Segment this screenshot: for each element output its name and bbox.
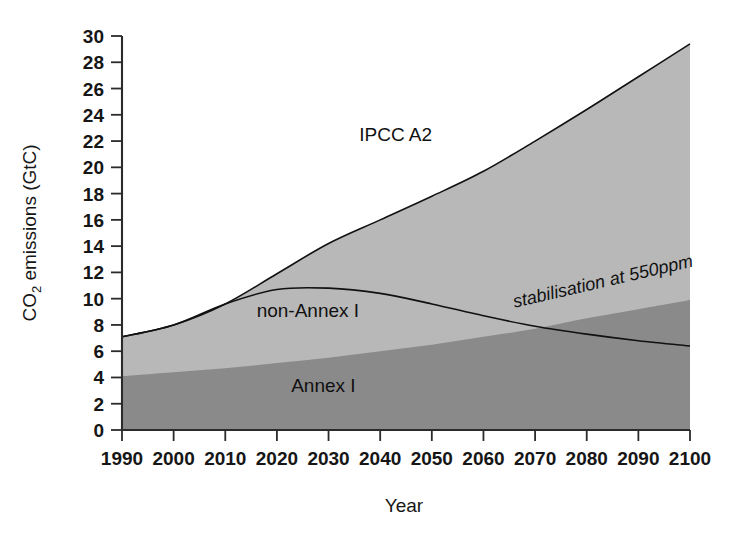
y-axis-title-subscript: 2 [29, 286, 44, 293]
chart-figure: 024681012141618202224262830 199020002010… [0, 0, 747, 535]
y-tick-label: 4 [93, 367, 104, 388]
y-tick-label: 24 [83, 105, 105, 126]
y-tick-label: 18 [83, 184, 104, 205]
y-axis-title-post: emissions (GtC) [19, 144, 40, 285]
y-tick-label: 0 [93, 420, 104, 441]
x-tick-label: 2010 [204, 448, 246, 469]
x-tick-label: 2030 [307, 448, 349, 469]
y-tick-label: 16 [83, 210, 104, 231]
y-tick-label: 8 [93, 315, 104, 336]
x-tick-label: 2090 [617, 448, 659, 469]
x-tick-label: 2080 [566, 448, 608, 469]
y-tick-label: 28 [83, 52, 104, 73]
x-tick-label: 2020 [256, 448, 298, 469]
y-tick-label: 26 [83, 79, 104, 100]
y-axis-title-pre: CO [19, 293, 40, 322]
annotation-annex-i: Annex I [291, 375, 355, 396]
x-tick-label: 2070 [514, 448, 556, 469]
x-axis-title: Year [385, 495, 424, 516]
annotation-ipcc-a2: IPCC A2 [359, 124, 432, 145]
y-tick-label: 12 [83, 262, 104, 283]
y-tick-label: 10 [83, 289, 104, 310]
y-tick-label: 2 [93, 394, 104, 415]
y-tick-label: 20 [83, 157, 104, 178]
emissions-area-chart: 024681012141618202224262830 199020002010… [0, 0, 747, 535]
x-tick-label: 2100 [669, 448, 711, 469]
x-tick-label: 1990 [101, 448, 143, 469]
x-tick-label: 2060 [462, 448, 504, 469]
y-tick-label: 14 [83, 236, 105, 257]
y-tick-label: 6 [93, 341, 104, 362]
x-tick-label: 2050 [411, 448, 453, 469]
y-tick-label: 22 [83, 131, 104, 152]
x-tick-label: 2040 [359, 448, 401, 469]
y-tick-label: 30 [83, 26, 104, 47]
x-tick-label: 2000 [152, 448, 194, 469]
annotation-non-annex-i: non-Annex I [257, 300, 359, 321]
